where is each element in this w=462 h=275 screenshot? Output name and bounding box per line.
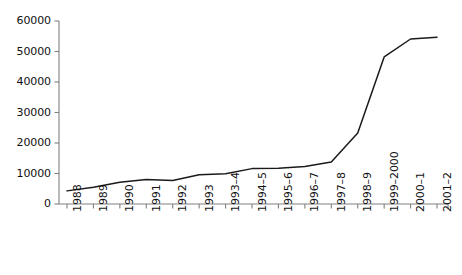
x-axis-tick-label: 1989 xyxy=(98,184,109,212)
x-axis-tick-label: 1999–2000 xyxy=(389,151,400,212)
y-axis-tick-label: 10000 xyxy=(17,168,52,179)
y-axis xyxy=(55,21,60,204)
x-axis-tick-label: 1993 xyxy=(204,184,215,212)
y-axis-tick-label: 0 xyxy=(44,198,51,209)
x-axis-tick-label: 1995–6 xyxy=(283,172,294,212)
x-axis-tick-label: 1991 xyxy=(151,184,162,212)
x-axis-tick-label: 1993–4 xyxy=(230,172,241,212)
x-axis-tick-label: 2001–2 xyxy=(442,172,453,212)
chart-plot-area xyxy=(0,0,462,275)
series-line-0 xyxy=(67,37,437,191)
x-axis-tick-label: 1990 xyxy=(124,184,135,212)
y-axis-tick-label: 60000 xyxy=(17,15,52,26)
y-axis-tick-label: 40000 xyxy=(17,76,52,87)
x-axis-tick-label: 2000–1 xyxy=(415,172,426,212)
x-axis-tick-label: 1998–9 xyxy=(362,172,373,212)
x-axis-tick-label: 1988 xyxy=(72,184,83,212)
y-axis-tick-label: 50000 xyxy=(17,46,52,57)
y-axis-tick-label: 20000 xyxy=(17,137,52,148)
y-axis-tick-label: 30000 xyxy=(17,107,52,118)
x-axis-tick-label: 1994–5 xyxy=(257,172,268,212)
data-series-line xyxy=(67,37,437,191)
x-axis-tick-label: 1997–8 xyxy=(336,172,347,212)
line-chart: 0100002000030000400005000060000 19881989… xyxy=(0,0,462,275)
x-axis-tick-label: 1992 xyxy=(177,184,188,212)
x-axis-tick-label: 1996–7 xyxy=(309,172,320,212)
